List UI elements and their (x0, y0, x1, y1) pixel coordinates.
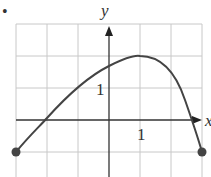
x-axis-label: x (205, 112, 211, 129)
left-endpoint (12, 148, 21, 157)
x-tick-label: 1 (137, 126, 146, 143)
y-tick-label: 1 (96, 81, 105, 98)
y-axis-arrow-icon (105, 26, 113, 36)
right-endpoint (198, 148, 207, 157)
y-axis-label: y (101, 2, 109, 19)
graph (0, 0, 211, 177)
axes (16, 32, 196, 177)
